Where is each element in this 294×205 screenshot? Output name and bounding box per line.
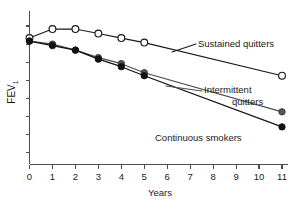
chart-container: 01234567891011 Years FEV1 Sustained quit… (0, 0, 294, 205)
annotations-layer: Sustained quitters Intermittent quitters… (155, 38, 274, 143)
x-axis-tick-label: 7 (188, 171, 193, 182)
annotation-sustained-quitters: Sustained quitters (198, 38, 274, 49)
x-axis-tick-labels: 01234567891011 (27, 171, 287, 182)
y-axis-title-group: FEV1 (6, 80, 19, 103)
data-point-intermittent-quitters (279, 109, 285, 115)
x-axis-tick-label: 4 (119, 171, 124, 182)
data-point-sustained-quitters (49, 26, 56, 33)
data-point-sustained-quitters (279, 72, 286, 79)
y-axis-ticks (26, 26, 30, 152)
x-axis-group: 01234567891011 (27, 165, 288, 182)
fev1-decline-line-chart: 01234567891011 Years FEV1 Sustained quit… (0, 0, 294, 205)
x-axis-tick-label: 6 (165, 171, 170, 182)
series-line-sustained-quitters (30, 29, 283, 76)
data-point-sustained-quitters (95, 30, 102, 37)
y-axis-group (26, 11, 30, 164)
x-axis-tick-label: 5 (142, 171, 147, 182)
annotation-continuous-smokers: Continuous smokers (155, 132, 242, 143)
data-point-continuous-smokers (279, 124, 285, 130)
data-point-continuous-smokers (49, 42, 55, 48)
leader-line-sustained (172, 44, 196, 52)
x-axis-tick-label: 0 (27, 171, 32, 182)
x-axis-tick-label: 1 (50, 171, 55, 182)
data-point-continuous-smokers (72, 47, 78, 53)
annotation-intermittent-quitters-line2: quitters (232, 96, 263, 107)
y-axis-title: FEV1 (6, 80, 19, 103)
x-axis-tick-label: 10 (254, 171, 265, 182)
x-axis-title-group: Years (148, 187, 172, 198)
x-axis-ticks (30, 165, 283, 169)
data-point-continuous-smokers (118, 63, 124, 69)
data-point-sustained-quitters (118, 35, 125, 42)
x-axis-tick-label: 9 (233, 171, 238, 182)
series-sustained-quitters (26, 26, 285, 79)
annotation-intermittent-quitters-line1: Intermittent (204, 84, 252, 95)
x-axis-tick-label: 8 (210, 171, 215, 182)
x-axis-tick-label: 3 (96, 171, 101, 182)
data-point-sustained-quitters (72, 26, 79, 33)
data-point-continuous-smokers (95, 56, 101, 62)
data-point-continuous-smokers (26, 38, 32, 44)
data-point-sustained-quitters (141, 39, 148, 46)
data-point-continuous-smokers (141, 73, 147, 79)
x-axis-tick-label: 11 (277, 171, 287, 182)
x-axis-title: Years (148, 187, 172, 198)
x-axis-tick-label: 2 (73, 171, 78, 182)
